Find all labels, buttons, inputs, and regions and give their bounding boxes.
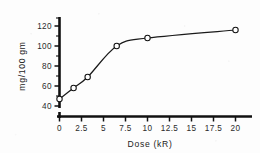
x-tick-label-2.5: 2.5 xyxy=(75,124,88,133)
x-axis-title: Dose (kR) xyxy=(128,139,173,149)
x-tick-label-5: 5 xyxy=(101,124,106,133)
data-point-marker xyxy=(114,43,119,48)
x-tick-label-15: 15 xyxy=(187,124,197,133)
data-series-dose-response xyxy=(57,27,238,101)
x-tick-label-12.5: 12.5 xyxy=(161,124,179,133)
x-tick-label-7.5: 7.5 xyxy=(119,124,132,133)
y-tick-label-80: 80 xyxy=(42,62,52,71)
x-tick-label-10: 10 xyxy=(143,124,153,133)
y-tick-label-40: 40 xyxy=(42,102,52,111)
dose-response-line-chart: 120 100 80 60 40 mg/100 gm 0 2.5 xyxy=(0,0,260,153)
x-tick-label-17.5: 17.5 xyxy=(205,124,223,133)
data-point-marker xyxy=(85,74,90,79)
y-axis-title: mg/100 gm xyxy=(17,41,27,90)
data-point-marker xyxy=(57,96,62,101)
y-tick-label-100: 100 xyxy=(37,42,52,51)
data-point-marker xyxy=(71,85,76,90)
x-axis-group: 0 2.5 5 7.5 10 12.5 15 17.5 20 Dose (kR) xyxy=(57,112,252,149)
data-point-marker xyxy=(145,35,150,40)
series-markers-group xyxy=(57,27,238,101)
y-axis-group: 120 100 80 60 40 mg/100 gm xyxy=(17,17,60,111)
y-tick-label-120: 120 xyxy=(37,22,52,31)
y-tick-label-60: 60 xyxy=(42,82,52,91)
data-point-marker xyxy=(233,27,238,32)
chart-figure: 120 100 80 60 40 mg/100 gm 0 2.5 xyxy=(0,0,260,153)
x-tick-label-0: 0 xyxy=(57,124,62,133)
x-tick-label-20: 20 xyxy=(231,124,241,133)
